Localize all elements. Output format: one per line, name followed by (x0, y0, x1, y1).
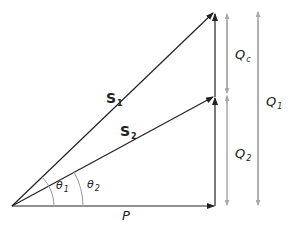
s2-vector (12, 97, 213, 206)
diagram-graphics (0, 0, 292, 226)
theta2-label: θ2 (87, 179, 100, 193)
theta1-label: θ1 (56, 180, 69, 194)
p-label: P (122, 209, 130, 222)
power-triangle-diagram: S1 S2 θ1 θ2 P Qc Q1 Q2 (0, 0, 292, 226)
theta2-arc (74, 172, 83, 206)
s1-label: S1 (106, 91, 123, 108)
s2-label: S2 (120, 124, 137, 141)
theta1-arc (42, 177, 54, 206)
q2-label: Q2 (235, 147, 251, 163)
q1-label: Q1 (266, 95, 282, 111)
qc-label: Qc (235, 48, 251, 64)
